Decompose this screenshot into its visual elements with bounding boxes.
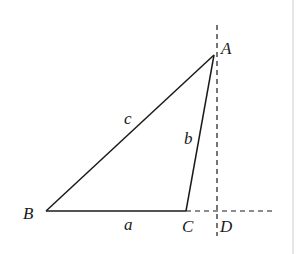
vertex-a-label: A bbox=[220, 39, 232, 58]
triangle-diagram: A B C D a b c bbox=[0, 0, 298, 254]
vertex-b-label: B bbox=[23, 204, 34, 223]
vertex-c-label: C bbox=[182, 217, 194, 236]
vertex-d-label: D bbox=[219, 217, 233, 236]
side-a-label: a bbox=[124, 215, 133, 234]
side-c-label: c bbox=[124, 109, 132, 128]
side-b-label: b bbox=[184, 129, 193, 148]
